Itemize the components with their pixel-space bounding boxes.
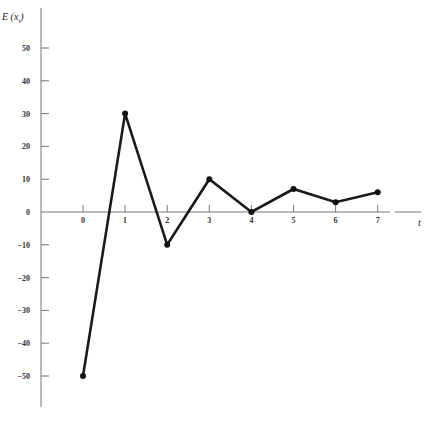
line-chart: 50403020100−10−20−30−40−50 01234567 E (x… <box>0 0 437 422</box>
x-axis-title: t <box>418 217 421 228</box>
y-tick-label: 40 <box>22 77 30 86</box>
data-point <box>122 111 128 117</box>
y-tick-label: 30 <box>22 110 30 119</box>
x-tick-label: 4 <box>249 216 253 225</box>
data-point <box>164 242 170 248</box>
x-tick-label: 0 <box>81 216 85 225</box>
axes <box>41 8 421 407</box>
data-point <box>80 373 86 379</box>
data-point <box>375 189 381 195</box>
data-point <box>291 186 297 192</box>
y-tick-label: 0 <box>26 208 30 217</box>
x-tick-label: 7 <box>376 216 380 225</box>
x-tick-label: 3 <box>207 216 211 225</box>
x-tick-label: 2 <box>165 216 169 225</box>
series-line <box>83 114 378 376</box>
y-tick-label: −10 <box>17 241 30 250</box>
data-point <box>333 199 339 205</box>
x-tick-label: 6 <box>334 216 338 225</box>
y-tick-label: −40 <box>17 339 30 348</box>
y-tick-label: −20 <box>17 274 30 283</box>
y-tick-label: 10 <box>22 175 30 184</box>
data-series <box>80 111 381 379</box>
y-tick-label: −50 <box>17 372 30 381</box>
x-tick-label: 1 <box>123 216 127 225</box>
x-axis-ticks: 01234567 <box>81 205 380 225</box>
y-tick-label: 20 <box>22 142 30 151</box>
data-point <box>248 209 254 215</box>
y-tick-label: −30 <box>17 306 30 315</box>
x-tick-label: 5 <box>292 216 296 225</box>
data-point <box>206 176 212 182</box>
y-axis-title: E (xt) <box>1 11 24 25</box>
y-tick-label: 50 <box>22 44 30 53</box>
